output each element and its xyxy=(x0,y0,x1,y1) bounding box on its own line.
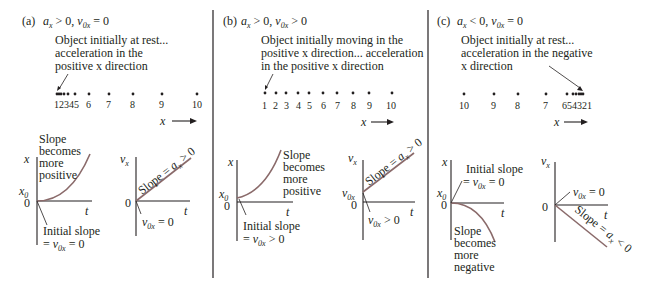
svg-text:3: 3 xyxy=(284,100,289,111)
slope-label: Slope = ax > 0 xyxy=(362,135,426,190)
svg-text:vx: vx xyxy=(348,151,357,167)
svg-text:5: 5 xyxy=(307,100,312,111)
svg-text:v0x = 0: v0x = 0 xyxy=(573,185,605,201)
svg-text:7: 7 xyxy=(543,100,548,111)
svg-text:t: t xyxy=(286,205,290,219)
panel-c: (c) ax < 0, v0x = 0 Object initially at … xyxy=(436,14,635,274)
svg-text:x: x xyxy=(441,155,448,169)
svg-text:= v0x > 0: = v0x > 0 xyxy=(243,232,284,248)
svg-text:positive: positive xyxy=(283,184,321,198)
svg-text:t: t xyxy=(85,204,89,218)
motion-numbers: 1 2 3 4 5 6 7 8 9 10 xyxy=(262,100,396,111)
kinematics-figure: (a) ax > 0, v0x = 0 Object initially at … xyxy=(0,0,645,294)
svg-text:t: t xyxy=(184,204,188,218)
svg-text:v0x = 0: v0x = 0 xyxy=(142,215,174,231)
svg-text:vx: vx xyxy=(120,152,129,168)
slope-label: Slope = ax > 0 xyxy=(135,144,199,199)
panel-label: (a) xyxy=(22,14,35,28)
x-direction-label: x xyxy=(159,114,166,128)
motion-dots xyxy=(463,93,585,96)
condition-text: ax > 0, v0x > 0 xyxy=(241,14,307,30)
description-line: positive x direction xyxy=(55,59,148,73)
description-line: acceleration in the negative xyxy=(461,46,593,60)
description-line: positive x direction... acceleration xyxy=(261,46,424,60)
pointer-arrow xyxy=(266,74,273,88)
svg-text:vx: vx xyxy=(541,154,550,170)
svg-text:x: x xyxy=(23,152,30,166)
velocity-time-graph: vx t 0 Slope = ax > 0 v0x = 0 xyxy=(120,144,199,236)
motion-numbers: 1234 5 6 7 8 9 10 xyxy=(54,99,202,110)
svg-text:10: 10 xyxy=(386,100,396,111)
svg-text:0: 0 xyxy=(542,200,548,214)
motion-dots xyxy=(56,93,199,96)
svg-text:10: 10 xyxy=(459,100,469,111)
svg-text:1: 1 xyxy=(262,100,267,111)
svg-text:0: 0 xyxy=(441,198,447,212)
svg-text:8: 8 xyxy=(130,99,135,110)
svg-text:5: 5 xyxy=(74,99,79,110)
svg-text:7: 7 xyxy=(335,100,340,111)
position-time-graph: x t x0 0 Slope becomes more positive Ini… xyxy=(18,132,100,253)
svg-text:0: 0 xyxy=(351,198,357,212)
slope-label: Slope = ax < 0 xyxy=(571,202,635,257)
svg-text:9: 9 xyxy=(367,100,372,111)
condition-text: ax > 0, v0x = 0 xyxy=(43,14,109,30)
svg-text:0: 0 xyxy=(24,196,30,210)
x-direction-label: x xyxy=(360,115,367,129)
svg-text:t: t xyxy=(410,205,414,219)
x-direction-label: x xyxy=(553,115,560,129)
svg-text:x: x xyxy=(227,155,234,169)
description-line: Object initially at rest... xyxy=(461,33,574,47)
svg-text:9: 9 xyxy=(159,99,164,110)
svg-text:9: 9 xyxy=(491,100,496,111)
svg-text:8: 8 xyxy=(515,100,520,111)
svg-text:= v0x = 0: = v0x = 0 xyxy=(463,175,504,191)
svg-text:v0x > 0: v0x > 0 xyxy=(368,213,400,229)
panel-label: (c) xyxy=(437,14,450,28)
svg-text:Initial slope: Initial slope xyxy=(466,162,523,176)
description-line: Object initially at rest... xyxy=(55,33,168,47)
description-line: in the positive x direction xyxy=(261,59,384,73)
description-line: Object initially moving in the xyxy=(261,33,403,47)
svg-text:6: 6 xyxy=(86,99,91,110)
description-line: acceleration in the xyxy=(55,46,143,60)
motion-dots xyxy=(264,92,394,95)
panel-b: (b) ax > 0, v0x > 0 Object initially mov… xyxy=(218,14,426,248)
svg-text:Initial slope: Initial slope xyxy=(43,224,100,238)
svg-text:7: 7 xyxy=(106,99,111,110)
svg-text:1234: 1234 xyxy=(54,99,74,110)
panel-label: (b) xyxy=(223,14,237,28)
position-time-graph: x t x0 0 Initial slope = v0x = 0 Slope b… xyxy=(436,155,523,274)
svg-text:= v0x = 0: = v0x = 0 xyxy=(43,237,84,253)
pointer-arrow xyxy=(549,66,580,88)
pointer-arrow xyxy=(59,74,68,89)
svg-text:0: 0 xyxy=(125,196,131,210)
velocity-time-graph: vx t 0 v0x = 0 Slope = ax < 0 xyxy=(541,154,635,257)
svg-text:10: 10 xyxy=(192,99,202,110)
svg-text:0: 0 xyxy=(224,199,230,213)
svg-text:2: 2 xyxy=(273,100,278,111)
panel-a: (a) ax > 0, v0x = 0 Object initially at … xyxy=(18,14,202,253)
svg-text:positive: positive xyxy=(39,168,77,182)
svg-text:t: t xyxy=(501,206,505,220)
svg-text:6: 6 xyxy=(321,100,326,111)
svg-text:654321: 654321 xyxy=(562,100,592,111)
velocity-time-graph: vx t v0x 0 Slope = ax > 0 v0x > 0 xyxy=(342,135,426,240)
description-line: x direction xyxy=(461,59,513,73)
motion-numbers: 10 9 8 7 654321 xyxy=(459,100,592,111)
condition-text: ax < 0, v0x = 0 xyxy=(457,14,523,30)
svg-text:4: 4 xyxy=(296,100,301,111)
svg-text:Initial slope: Initial slope xyxy=(243,219,300,233)
position-time-graph: x t x0 0 Slope becomes more positive Ini… xyxy=(218,148,325,248)
svg-text:8: 8 xyxy=(351,100,356,111)
svg-text:negative: negative xyxy=(454,260,495,274)
